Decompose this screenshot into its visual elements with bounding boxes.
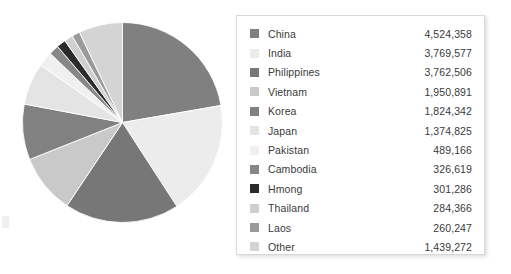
legend-label: Hmong [268, 183, 410, 195]
legend-value: 3,762,506 [410, 66, 472, 78]
legend-row[interactable]: Philippines3,762,506 [237, 63, 484, 82]
legend-swatch-icon [250, 107, 259, 116]
legend-swatch-icon [250, 204, 259, 213]
legend-label: Laos [268, 222, 410, 234]
legend-value: 1,439,272 [410, 241, 472, 253]
legend-value: 3,769,577 [410, 47, 472, 59]
legend-label: China [268, 28, 410, 40]
legend-value: 326,619 [410, 163, 472, 175]
legend-value: 260,247 [410, 222, 472, 234]
legend-row[interactable]: Pakistan489,166 [237, 140, 484, 159]
legend-swatch-icon [250, 29, 259, 38]
legend-value: 284,366 [410, 202, 472, 214]
legend-label: Korea [268, 105, 410, 117]
legend-label: Philippines [268, 66, 410, 78]
legend-swatch-icon [250, 242, 259, 251]
legend-value: 1,950,891 [410, 86, 472, 98]
legend-panel: China4,524,358India3,769,577Philippines3… [236, 15, 485, 255]
legend-row[interactable]: Vietnam1,950,891 [237, 82, 484, 101]
legend-swatch-icon [250, 126, 259, 135]
legend-label: Other [268, 241, 410, 253]
legend-swatch-icon [250, 68, 259, 77]
legend-swatch-icon [250, 146, 259, 155]
legend-row[interactable]: Thailand284,366 [237, 199, 484, 218]
legend-row[interactable]: Laos260,247 [237, 218, 484, 237]
legend-list: China4,524,358India3,769,577Philippines3… [237, 24, 484, 257]
legend-row[interactable]: China4,524,358 [237, 24, 484, 43]
legend-swatch-icon [250, 223, 259, 232]
legend-value: 301,286 [410, 183, 472, 195]
legend-label: Pakistan [268, 144, 410, 156]
legend-label: Thailand [268, 202, 410, 214]
legend-value: 489,166 [410, 144, 472, 156]
legend-swatch-icon [250, 87, 259, 96]
legend-swatch-icon [250, 165, 259, 174]
legend-label: Cambodia [268, 163, 410, 175]
legend-swatch-icon [250, 184, 259, 193]
legend-row[interactable]: Hmong301,286 [237, 179, 484, 198]
legend-row[interactable]: India3,769,577 [237, 43, 484, 62]
legend-label: India [268, 47, 410, 59]
legend-value: 4,524,358 [410, 28, 472, 40]
legend-row[interactable]: Cambodia326,619 [237, 160, 484, 179]
pie-chart-svg [22, 22, 223, 223]
legend-label: Japan [268, 125, 410, 137]
legend-value: 1,374,825 [410, 125, 472, 137]
pie-chart-area [0, 0, 230, 274]
edge-artifact [2, 216, 9, 228]
legend-swatch-icon [250, 49, 259, 58]
legend-label: Vietnam [268, 86, 410, 98]
pie-slice[interactable] [123, 23, 222, 123]
legend-row[interactable]: Japan1,374,825 [237, 121, 484, 140]
legend-row[interactable]: Korea1,824,342 [237, 102, 484, 121]
legend-value: 1,824,342 [410, 105, 472, 117]
legend-row[interactable]: Other1,439,272 [237, 237, 484, 256]
